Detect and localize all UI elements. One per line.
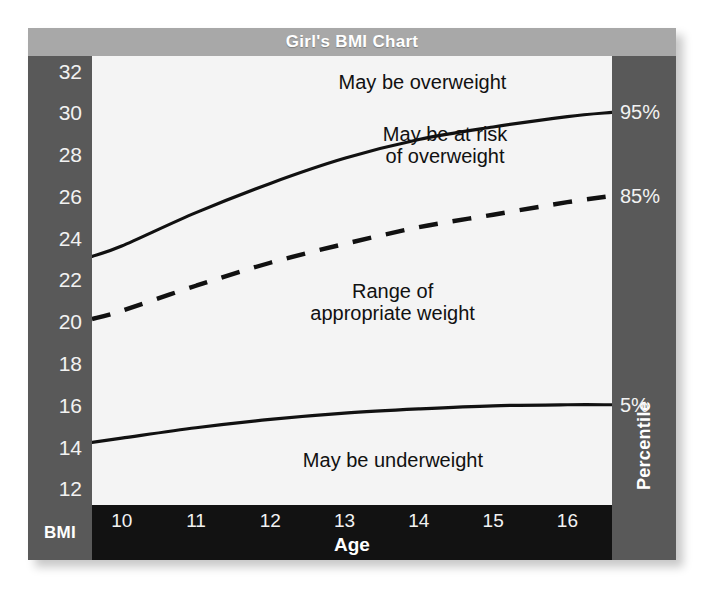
y-axis-tick-label: 30	[59, 102, 82, 123]
bmi-axis-title-text: BMI	[44, 523, 76, 543]
y-axis-tick-label: 20	[59, 311, 82, 332]
y-axis-tick-label: 12	[59, 478, 82, 499]
curve-5th-percentile	[92, 405, 612, 443]
percentile-axis-bar: Percentile 95%85%5%	[612, 56, 676, 533]
y-axis-tick-label: 24	[59, 227, 82, 248]
axis-corner-filler	[612, 505, 676, 560]
x-axis-tick-label: 10	[111, 511, 132, 530]
y-axis-tick-label: 26	[59, 185, 82, 206]
x-axis-tick-label: 14	[408, 511, 429, 530]
page-title: Girl's BMI Chart	[286, 32, 419, 52]
percentile-tick-label: 5%	[620, 395, 649, 415]
x-axis-tick-label: 12	[260, 511, 281, 530]
percentile-tick-label: 95%	[620, 102, 660, 122]
bmi-axis-title: BMI	[28, 505, 92, 560]
y-axis-tick-label: 22	[59, 269, 82, 290]
age-axis-title-text: Age	[92, 534, 612, 556]
x-axis-tick-label: 15	[483, 511, 504, 530]
y-axis-tick-label: 32	[59, 60, 82, 81]
y-axis-bar: 1214161820222426283032	[28, 56, 92, 533]
percentile-tick-label: 85%	[620, 186, 660, 206]
y-axis-tick-label: 28	[59, 144, 82, 165]
y-axis-tick-label: 18	[59, 352, 82, 373]
plot-area: May be overweightMay be at risk of overw…	[92, 56, 612, 505]
annotation-may-be-underweight: May be underweight	[303, 450, 483, 472]
x-axis-tick-label: 13	[334, 511, 355, 530]
curve-95th-percentile	[92, 112, 612, 256]
annotation-range-appropriate-weight: Range of appropriate weight	[310, 281, 475, 324]
x-axis-tick-label: 11	[186, 511, 206, 530]
y-axis-tick-label: 14	[59, 436, 82, 457]
x-axis-bar: Age 10111213141516	[92, 505, 612, 560]
bmi-chart-figure: Girl's BMI Chart 1214161820222426283032 …	[28, 28, 676, 560]
annotation-may-be-overweight: May be overweight	[339, 72, 507, 94]
y-axis-tick-label: 16	[59, 394, 82, 415]
x-axis-tick-label: 16	[557, 511, 578, 530]
annotation-may-be-at-risk: May be at risk of overweight	[383, 124, 507, 167]
chart-title-banner: Girl's BMI Chart	[28, 28, 676, 56]
